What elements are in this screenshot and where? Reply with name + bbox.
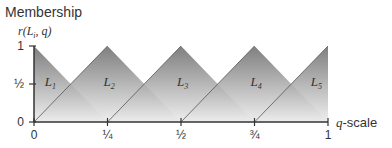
x-tick-label: ½ (176, 128, 186, 142)
membership-chart: 0¼½¾10½1q-scale L1L2L3L4L5 (0, 0, 392, 148)
y-tick-label: 0 (17, 115, 24, 129)
y-tick-label: ½ (14, 77, 24, 91)
x-tick-label: 0 (31, 128, 38, 142)
x-tick-label: ¾ (249, 128, 260, 142)
x-tick-label: ¼ (102, 128, 113, 142)
x-tick-label: 1 (325, 128, 332, 142)
y-tick-label: 1 (17, 39, 24, 53)
x-axis-label: q-scale (336, 115, 377, 130)
